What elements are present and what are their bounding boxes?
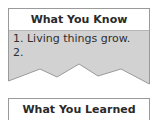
list-item: 1. Living things grow. (13, 32, 130, 46)
what-you-know-title: What You Know (8, 8, 150, 31)
what-you-learned-title: What You Learned (8, 98, 150, 120)
what-you-learned-box: What You Learned (8, 98, 150, 120)
list-item: 2. (13, 46, 130, 60)
what-you-know-body: 1. Living things grow. 2. (8, 30, 150, 86)
what-you-know-box: What You Know 1. Living things grow. 2. (8, 8, 150, 86)
